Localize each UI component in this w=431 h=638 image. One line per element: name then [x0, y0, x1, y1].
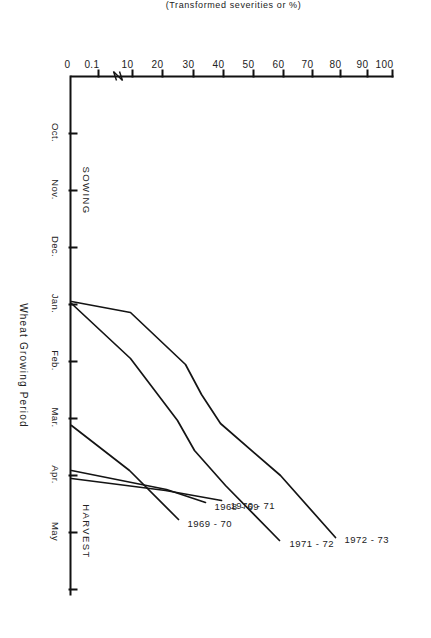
figure-page: 100 90 80 70 60 50 40 30 20 10 0.1 0 (Tr…	[0, 0, 431, 638]
series-line-1969-70	[71, 425, 178, 519]
series-label-1972-73: 1972 - 73	[344, 534, 389, 544]
chart-stage: 100 90 80 70 60 50 40 30 20 10 0.1 0 (Tr…	[0, 0, 431, 638]
series-label-1970-71: 1970 - 71	[230, 500, 275, 510]
series-label-1969-70: 1969 - 70	[187, 518, 232, 528]
series-label-1971-72: 1971 - 72	[289, 538, 334, 548]
series-line-1968-69	[71, 470, 205, 502]
series-line-1970-71	[71, 478, 221, 500]
